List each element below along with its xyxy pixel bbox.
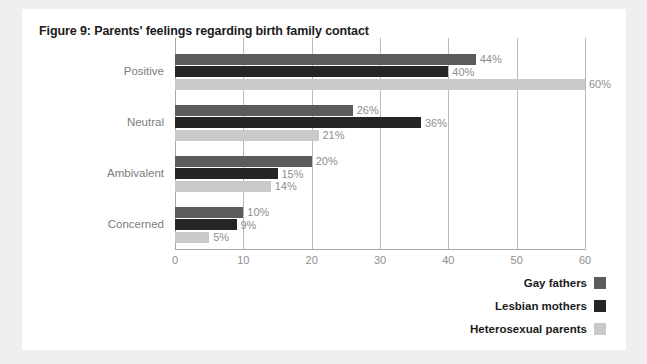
legend-swatch [594,323,606,335]
bar-value-label: 9% [241,219,257,231]
x-tick-label: 60 [579,254,591,266]
bar-value-label: 26% [357,104,379,116]
bar[interactable] [175,117,421,128]
x-tick-label: 20 [306,254,318,266]
category-label: Concerned [108,218,164,230]
bar[interactable] [175,232,209,243]
bar-value-label: 14% [275,180,297,192]
bar-row: 20% [175,156,585,167]
bar[interactable] [175,219,237,230]
bar-value-label: 5% [213,231,229,243]
bar[interactable] [175,79,585,90]
x-tick-label: 10 [237,254,249,266]
x-tick-label: 50 [511,254,523,266]
bar-row: 26% [175,105,585,116]
category-label: Ambivalent [107,167,164,179]
bar-value-label: 10% [247,206,269,218]
legend-swatch [594,300,606,312]
bar-group: Ambivalent20%15%14% [175,148,585,199]
legend-label: Lesbian mothers [495,300,587,312]
x-tick-label: 40 [442,254,454,266]
bar-group: Concerned10%9%5% [175,199,585,250]
bar[interactable] [175,66,448,77]
bar-value-label: 44% [480,53,502,65]
bar-row: 9% [175,219,585,230]
x-tick-label: 0 [172,254,178,266]
bar-row: 60% [175,79,585,90]
legend-label: Heterosexual parents [470,323,587,335]
bar-row: 36% [175,117,585,128]
bar-row: 21% [175,130,585,141]
bar-value-label: 40% [452,66,474,78]
bar-value-label: 15% [282,168,304,180]
category-label: Neutral [127,116,164,128]
bar-row: 40% [175,66,585,77]
legend-label: Gay fathers [524,277,587,289]
figure-card: Figure 9: Parents' feelings regarding bi… [22,9,626,350]
figure-title: Figure 9: Parents' feelings regarding bi… [39,24,369,38]
category-label: Positive [124,65,164,77]
bar-group: Neutral26%36%21% [175,97,585,148]
bar[interactable] [175,207,243,218]
bar-row: 44% [175,54,585,65]
chart-plot-area: 0102030405060 Positive44%40%60%Neutral26… [175,46,585,250]
legend-item[interactable]: Lesbian mothers [322,294,606,317]
figure-page: Figure 9: Parents' feelings regarding bi… [0,0,647,364]
bar-value-label: 36% [425,117,447,129]
gridline-60 [585,38,586,250]
bar[interactable] [175,181,271,192]
bar-value-label: 20% [316,155,338,167]
legend-swatch [594,277,606,289]
bar-value-label: 60% [589,78,611,90]
bar-row: 15% [175,168,585,179]
bar-value-label: 21% [323,129,345,141]
chart-legend: Gay fathersLesbian mothersHeterosexual p… [322,271,606,340]
x-tick-label: 30 [374,254,386,266]
bar-group: Positive44%40%60% [175,46,585,97]
bar[interactable] [175,105,353,116]
legend-item[interactable]: Heterosexual parents [322,317,606,340]
bar-row: 5% [175,232,585,243]
bar[interactable] [175,156,312,167]
legend-item[interactable]: Gay fathers [322,271,606,294]
bar[interactable] [175,168,278,179]
bar[interactable] [175,54,476,65]
bar[interactable] [175,130,319,141]
bar-row: 14% [175,181,585,192]
bar-row: 10% [175,207,585,218]
